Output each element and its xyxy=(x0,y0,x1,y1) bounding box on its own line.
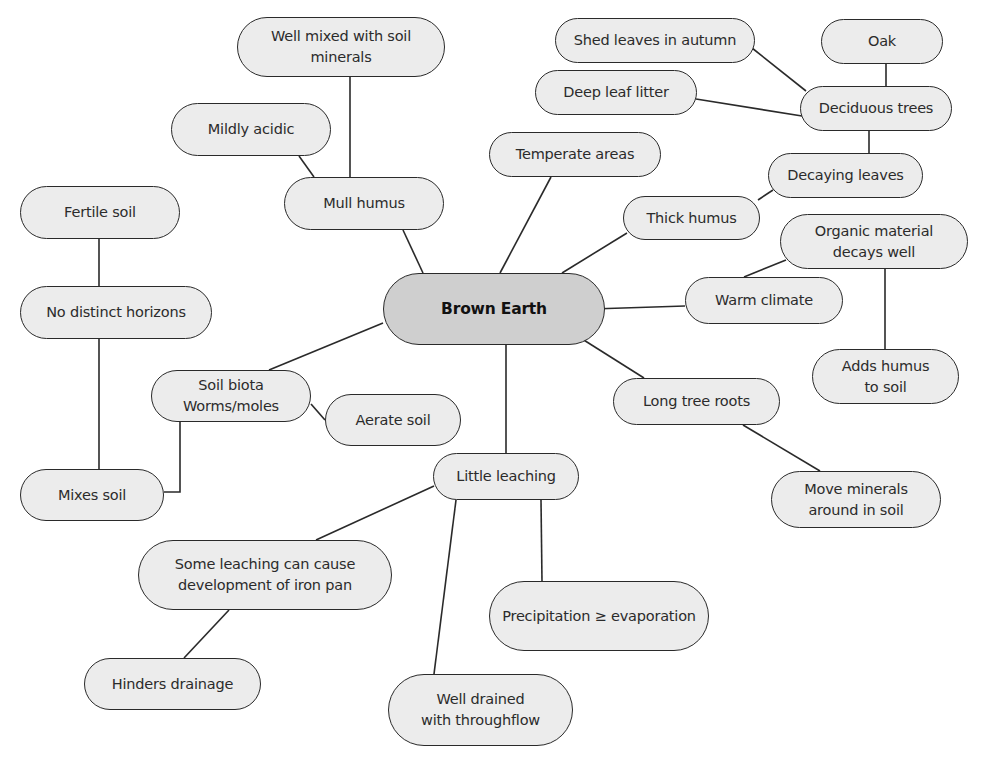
node-hinders: Hinders drainage xyxy=(84,658,261,710)
node-thick-humus: Thick humus xyxy=(623,196,760,240)
node-deep-litter: Deep leaf litter xyxy=(535,70,697,115)
edge-decaying-to-thick_humus xyxy=(758,190,773,200)
node-mull-humus: Mull humus xyxy=(284,177,444,230)
node-precip: Precipitation ≥ evaporation xyxy=(489,581,709,651)
edge-shed_leaves-to-deciduous xyxy=(752,48,806,91)
edge-long_roots-to-move_minerals xyxy=(743,425,820,471)
node-no-horizons: No distinct horizons xyxy=(20,286,212,339)
node-warm-climate: Warm climate xyxy=(685,277,843,324)
node-move-minerals: Move minerals around in soil xyxy=(771,471,941,528)
edge-thick_humus-to-brown_earth xyxy=(562,233,627,273)
node-little-leaching: Little leaching xyxy=(433,453,579,500)
node-deciduous: Deciduous trees xyxy=(800,86,952,131)
edge-iron_pan-to-hinders xyxy=(184,610,229,658)
edge-deep_litter-to-deciduous xyxy=(696,99,802,116)
edge-brown_earth-to-warm_climate xyxy=(592,306,685,309)
edge-soil_biota-to-mixes_soil xyxy=(164,422,180,492)
node-aerate: Aerate soil xyxy=(325,394,461,446)
node-brown-earth: Brown Earth xyxy=(383,273,605,345)
edge-little_leaching-to-iron_pan xyxy=(316,486,434,540)
node-fertile-soil: Fertile soil xyxy=(20,186,180,239)
edge-mildly_acidic-to-mull_humus xyxy=(299,156,314,177)
node-mildly-acidic: Mildly acidic xyxy=(171,103,331,156)
node-shed-leaves: Shed leaves in autumn xyxy=(555,18,755,63)
node-well-mixed: Well mixed with soil minerals xyxy=(237,17,445,77)
edge-temperate-to-brown_earth xyxy=(500,177,551,273)
node-iron-pan: Some leaching can cause development of i… xyxy=(138,540,392,610)
node-long-roots: Long tree roots xyxy=(613,378,780,425)
edge-warm_climate-to-organic xyxy=(744,260,786,277)
edge-soil_biota-to-aerate xyxy=(311,404,325,420)
edge-little_leaching-to-well_drained xyxy=(434,500,456,674)
edge-brown_earth-to-long_roots xyxy=(579,337,644,378)
node-soil-biota: Soil biota Worms/moles xyxy=(151,370,311,422)
node-temperate: Temperate areas xyxy=(489,132,661,177)
node-well-drained: Well drained with throughflow xyxy=(388,674,573,746)
node-organic: Organic material decays well xyxy=(780,214,968,269)
edge-little_leaching-to-precip xyxy=(541,500,542,581)
edge-brown_earth-to-soil_biota xyxy=(269,323,383,370)
node-oak: Oak xyxy=(821,19,943,64)
node-adds-humus: Adds humus to soil xyxy=(812,349,959,404)
edge-mull_humus-to-brown_earth xyxy=(403,230,423,273)
node-mixes-soil: Mixes soil xyxy=(20,469,164,521)
node-decaying: Decaying leaves xyxy=(768,153,923,198)
